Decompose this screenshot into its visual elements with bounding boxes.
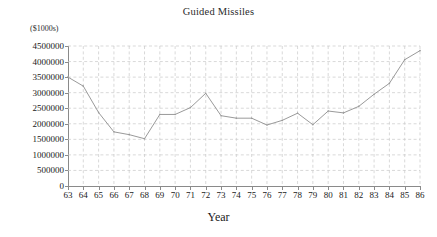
chart-title: Guided Missiles	[0, 6, 437, 17]
x-axis-tick-mark	[405, 187, 406, 190]
data-point	[128, 134, 130, 136]
y-axis-tick-mark	[65, 155, 68, 156]
y-axis-tick-mark	[65, 108, 68, 109]
data-point	[159, 114, 161, 116]
data-point	[251, 117, 253, 119]
data-point	[419, 50, 421, 52]
data-point	[113, 131, 115, 133]
data-point	[373, 93, 375, 95]
data-point	[404, 59, 406, 61]
x-axis-tick-label: 65	[94, 190, 103, 200]
x-axis-tick-label: 73	[217, 190, 226, 200]
x-axis-tick-mark	[145, 187, 146, 190]
y-axis-tick-label: 1000000	[0, 150, 64, 160]
x-axis-tick-label: 64	[79, 190, 88, 200]
x-axis-tick-mark	[129, 187, 130, 190]
x-axis-tick-label: 69	[155, 190, 164, 200]
chart-figure: Guided Missiles ($1000s) 450000040000003…	[0, 0, 437, 237]
y-axis-tick-label: 4000000	[0, 57, 64, 67]
data-point	[98, 112, 100, 114]
x-axis-tick-mark	[83, 187, 84, 190]
x-axis-tick-label: 84	[385, 190, 394, 200]
x-axis-tick-mark	[206, 187, 207, 190]
data-point	[83, 85, 85, 87]
x-axis-tick-mark	[236, 187, 237, 190]
x-axis-tick-label: 86	[416, 190, 425, 200]
x-axis-tick-label: 74	[232, 190, 241, 200]
x-axis-tick-label: 75	[247, 190, 256, 200]
y-axis-tick-mark	[65, 139, 68, 140]
x-axis-tick-mark	[389, 187, 390, 190]
y-axis-tick-mark	[65, 124, 68, 125]
x-axis-tick-label: 79	[308, 190, 317, 200]
y-axis-tick-label: 2000000	[0, 119, 64, 129]
data-point	[281, 120, 283, 122]
data-point	[343, 112, 345, 114]
x-axis-tick-mark	[99, 187, 100, 190]
data-point	[312, 124, 314, 126]
y-axis-tick-label: 4500000	[0, 41, 64, 51]
x-axis-tick-label: 76	[262, 190, 271, 200]
data-point	[389, 83, 391, 85]
x-axis-tick-mark	[190, 187, 191, 190]
x-axis-tick-label: 66	[109, 190, 118, 200]
x-axis-tick-mark	[374, 187, 375, 190]
x-axis-line	[68, 186, 421, 187]
x-axis-tick-mark	[313, 187, 314, 190]
x-axis-tick-label: 77	[278, 190, 287, 200]
x-axis-tick-label: 63	[64, 190, 73, 200]
x-axis-tick-label: 78	[293, 190, 302, 200]
y-axis-tick-mark	[65, 77, 68, 78]
x-axis-tick-label: 85	[400, 190, 409, 200]
y-axis-tick-label: 1500000	[0, 134, 64, 144]
x-axis-tick-label: 72	[201, 190, 210, 200]
y-axis-tick-label: 500000	[0, 165, 64, 175]
x-axis-tick-mark	[252, 187, 253, 190]
x-axis-tick-label: 68	[140, 190, 149, 200]
x-axis-tick-mark	[160, 187, 161, 190]
data-point	[220, 115, 222, 117]
x-axis-tick-label: 67	[125, 190, 134, 200]
y-axis-tick-mark	[65, 93, 68, 94]
y-axis-tick-mark	[65, 46, 68, 47]
x-axis-tick-label: 81	[339, 190, 348, 200]
x-axis-tick-label: 83	[370, 190, 379, 200]
data-point	[266, 124, 268, 126]
x-axis-title: Year	[0, 210, 437, 225]
data-point	[297, 112, 299, 114]
y-axis-tick-mark	[65, 62, 68, 63]
y-axis-tick-mark	[65, 170, 68, 171]
y-axis-tick-label: 3500000	[0, 72, 64, 82]
x-axis-tick-mark	[68, 187, 69, 190]
x-axis-tick-mark	[267, 187, 268, 190]
x-axis-tick-mark	[175, 187, 176, 190]
data-point	[174, 114, 176, 116]
data-point	[190, 107, 192, 109]
x-axis-tick-mark	[282, 187, 283, 190]
x-axis-tick-label: 82	[354, 190, 363, 200]
x-axis-tick-mark	[328, 187, 329, 190]
data-point	[205, 92, 207, 94]
y-axis-tick-label: 0	[0, 181, 64, 191]
x-axis-tick-mark	[343, 187, 344, 190]
data-point	[236, 117, 238, 119]
y-axis-tick-labels: 4500000400000035000003000000250000020000…	[0, 0, 64, 237]
x-axis-tick-mark	[359, 187, 360, 190]
x-axis-tick-mark	[420, 187, 421, 190]
data-point	[358, 106, 360, 108]
x-axis-tick-mark	[298, 187, 299, 190]
x-axis-tick-label: 71	[186, 190, 195, 200]
y-axis-tick-label: 3000000	[0, 88, 64, 98]
data-point	[144, 138, 146, 140]
series-polyline	[68, 51, 420, 139]
plot-area	[68, 46, 420, 186]
data-point	[327, 110, 329, 112]
y-axis-tick-label: 2500000	[0, 103, 64, 113]
x-axis-tick-mark	[114, 187, 115, 190]
x-axis-tick-mark	[221, 187, 222, 190]
x-axis-tick-label: 70	[171, 190, 180, 200]
x-axis-tick-label: 80	[324, 190, 333, 200]
data-series-line	[68, 46, 420, 186]
